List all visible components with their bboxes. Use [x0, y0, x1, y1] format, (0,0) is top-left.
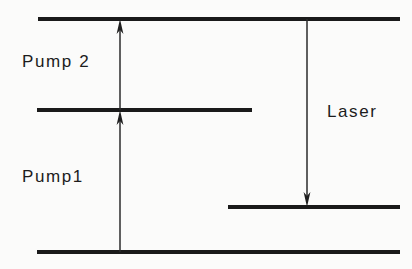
transition-arrow-laser	[304, 19, 311, 207]
transition-arrow-pump2	[117, 19, 124, 110]
label-pump1: Pump1	[22, 168, 84, 185]
energy-level-diagram: Pump 2 Pump1 Laser	[0, 0, 412, 269]
transition-arrow-pump1	[117, 110, 124, 252]
label-pump2: Pump 2	[22, 53, 90, 70]
label-laser: Laser	[327, 103, 378, 120]
diagram-canvas	[0, 0, 412, 269]
